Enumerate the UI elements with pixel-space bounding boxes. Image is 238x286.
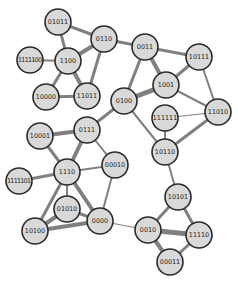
nodes-layer: 0101101101100111110010000110110011101111… [6, 9, 231, 275]
node-10000[interactable]: 10000 [33, 84, 59, 110]
node-1111101[interactable]: 1111101 [6, 168, 32, 194]
node-11010[interactable]: 11010 [205, 99, 231, 125]
node-10110[interactable]: 10110 [152, 139, 178, 165]
node-0011[interactable]: 0011 [132, 34, 158, 60]
node-11110[interactable]: 11110 [186, 222, 212, 248]
node-0000[interactable]: 0000 [87, 208, 113, 234]
node-00011[interactable]: 00011 [157, 249, 183, 275]
node-00010[interactable]: 00010 [102, 152, 128, 178]
node-0111[interactable]: 0111 [74, 117, 100, 143]
node-label: 1001 [158, 81, 174, 89]
node-11011[interactable]: 11011 [74, 83, 100, 109]
node-label: 01010 [57, 205, 77, 213]
node-label: 10000 [36, 93, 56, 101]
node-0110[interactable]: 0110 [91, 26, 117, 52]
node-label: 0111 [79, 126, 95, 134]
node-10100[interactable]: 10100 [22, 218, 48, 244]
node-label: 10110 [155, 148, 175, 156]
node-label: 1110 [59, 168, 75, 176]
node-10101[interactable]: 10101 [165, 184, 191, 210]
node-10001[interactable]: 10001 [27, 123, 53, 149]
node-label: 1111100 [18, 56, 42, 64]
node-label: 0010 [140, 226, 156, 234]
node-label: 0000 [92, 217, 108, 225]
node-label: 10100 [25, 227, 45, 235]
node-10111[interactable]: 10111 [186, 44, 212, 70]
node-label: 11110 [189, 231, 209, 239]
node-1001[interactable]: 1001 [153, 72, 179, 98]
network-graph: 0101101101100111110010000110110011101111… [0, 0, 238, 286]
node-label: 10001 [30, 132, 50, 140]
node-label: 10111 [189, 53, 209, 61]
node-label: 00010 [105, 161, 125, 169]
node-label: 01011 [48, 18, 68, 26]
node-label: 00011 [160, 258, 180, 266]
node-label: 111111 [153, 114, 177, 122]
node-01010[interactable]: 01010 [54, 196, 80, 222]
node-label: 1111101 [7, 177, 31, 185]
node-label: 11011 [77, 92, 97, 100]
node-01011[interactable]: 01011 [45, 9, 71, 35]
node-1100[interactable]: 1100 [55, 48, 81, 74]
node-1111100[interactable]: 1111100 [17, 47, 43, 73]
node-0010[interactable]: 0010 [135, 217, 161, 243]
node-label: 1100 [60, 57, 76, 65]
node-label: 0100 [116, 97, 132, 105]
node-111111[interactable]: 111111 [152, 105, 178, 131]
node-0100[interactable]: 0100 [111, 88, 137, 114]
node-label: 10101 [168, 193, 188, 201]
node-1110[interactable]: 1110 [54, 159, 80, 185]
node-label: 0110 [96, 35, 112, 43]
node-label: 11010 [208, 108, 228, 116]
node-label: 0011 [137, 43, 153, 51]
